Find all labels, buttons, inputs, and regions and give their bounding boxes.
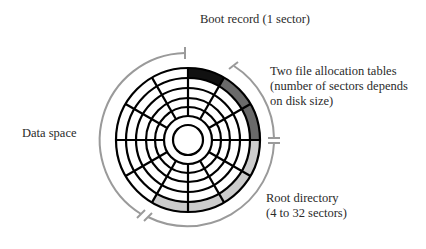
data-space-label: Data space xyxy=(22,126,76,141)
disk-diagram: Boot record (1 sector) Two file allocati… xyxy=(0,0,426,249)
fat-label-line-3: on disk size) xyxy=(270,94,408,109)
hub-outer xyxy=(164,116,212,164)
root-label-line-2: (4 to 32 sectors) xyxy=(266,206,347,221)
fat-label-line-1: Two file allocation tables xyxy=(270,64,408,79)
fat-label-line-2: (number of sectors depends xyxy=(270,79,408,94)
root-directory-label: Root directory (4 to 32 sectors) xyxy=(266,191,347,221)
hub-inner xyxy=(173,125,203,155)
root-label-line-1: Root directory xyxy=(266,191,347,206)
root-bracket-tick-bottom xyxy=(144,213,152,221)
disk-diagram-svg xyxy=(0,0,426,249)
boot-record-label: Boot record (1 sector) xyxy=(200,12,310,27)
fat-label: Two file allocation tables (number of se… xyxy=(270,64,408,109)
